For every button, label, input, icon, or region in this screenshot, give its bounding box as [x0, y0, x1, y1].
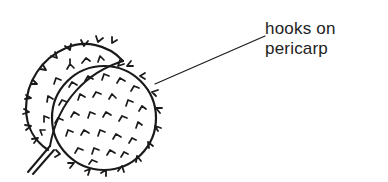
- leader-line: [155, 36, 265, 84]
- label-line-2: pericarp: [265, 39, 336, 59]
- back-lobe-outline: [26, 44, 123, 150]
- hooks-on-pericarp-label: hooks on pericarp: [265, 19, 336, 59]
- label-line-1: hooks on: [265, 19, 336, 39]
- inner-division: [50, 61, 123, 146]
- stalk: [28, 146, 54, 174]
- front-lobe-outline: [52, 66, 156, 170]
- hooked-fruit-diagram: hooks on pericarp: [0, 0, 388, 182]
